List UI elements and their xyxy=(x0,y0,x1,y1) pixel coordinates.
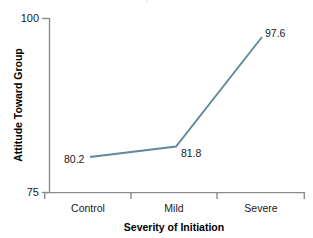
data-label-control: 80.2 xyxy=(64,153,85,165)
y-tick-label-100: 100 xyxy=(21,12,39,24)
data-line-series-attitude xyxy=(90,37,262,157)
chart-canvas: 100 75 Attitude Toward Group Control Mil… xyxy=(0,0,313,238)
y-axis-title: Attitude Toward Group xyxy=(12,48,24,162)
x-axis-title: Severity of Initiation xyxy=(124,221,224,233)
x-category-label-mild: Mild xyxy=(164,202,183,214)
data-label-severe: 97.6 xyxy=(265,27,286,39)
line-chart-figure: Severity of Initiation 100 75 Attitude T… xyxy=(0,0,313,238)
y-tick-label-75: 75 xyxy=(27,186,39,198)
x-category-label-control: Control xyxy=(71,202,105,214)
x-category-label-severe: Severe xyxy=(244,202,277,214)
data-label-mild: 81.8 xyxy=(181,147,202,159)
